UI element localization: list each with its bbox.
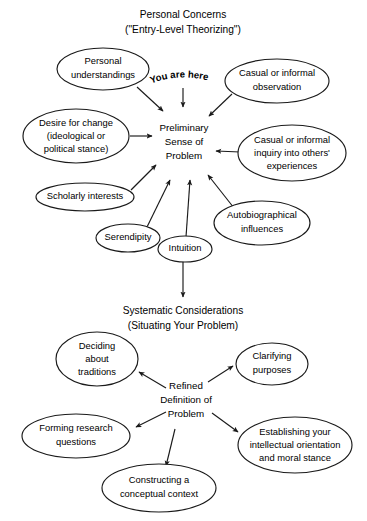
- clarifying-purposes-line2: purposes: [253, 364, 292, 375]
- node-scholarly-interests[interactable]: Scholarly interests: [36, 183, 134, 211]
- establishing-orientation-line1: Establishing your: [259, 426, 330, 437]
- serendipity-line1: Serendipity: [105, 231, 152, 242]
- autobiographical-line1: Autobiographical: [227, 209, 297, 220]
- edge-hub-to-establishing-orientation: [212, 413, 238, 432]
- node-autobiographical-influences[interactable]: Autobiographical influences: [214, 201, 310, 245]
- personal-understandings-line2: understandings: [71, 69, 135, 80]
- deciding-traditions-line1: Deciding: [79, 340, 115, 351]
- preliminary-sense-of-problem-hub: Preliminary Sense of Problem: [160, 122, 209, 161]
- establishing-orientation-line2: intellectual orientation: [250, 439, 341, 450]
- establishing-orientation-line3: and moral stance: [259, 452, 331, 463]
- node-constructing-conceptual-context[interactable]: Constructing a conceptual context: [102, 464, 216, 512]
- forming-research-questions-line2: questions: [56, 436, 96, 447]
- clarifying-purposes-line1: Clarifying: [252, 350, 291, 361]
- node-intuition[interactable]: Intuition: [158, 236, 212, 262]
- edge-serendipity-to-hub: [147, 180, 170, 227]
- bottom-hub-label-line1: Refined: [169, 380, 203, 391]
- node-establishing-orientation[interactable]: Establishing your intellectual orientati…: [238, 417, 352, 473]
- edge-hub-to-constructing-context: [166, 429, 175, 466]
- desire-for-change-line3: political stance): [44, 143, 109, 154]
- casual-inquiry-line2: inquiry into others': [254, 147, 330, 158]
- hub-label-line2: Sense of: [165, 136, 204, 147]
- top-section-title-line2: ("Entry-Level Theorizing"): [125, 24, 241, 35]
- node-clarifying-purposes[interactable]: Clarifying purposes: [236, 343, 308, 385]
- node-serendipity[interactable]: Serendipity: [96, 224, 160, 252]
- you-are-here-text: You are here: [148, 68, 209, 85]
- desire-for-change-line2: (ideological or: [47, 130, 105, 141]
- edge-hub-to-forming-research-questions: [136, 412, 166, 427]
- forming-research-questions-line1: Forming research: [39, 422, 112, 433]
- edge-autobiographical-to-hub: [208, 175, 234, 208]
- edge-hub-to-deciding-traditions: [139, 372, 166, 388]
- desire-for-change-line1: Desire for change: [39, 117, 113, 128]
- edge-scholarly-interests-to-hub: [131, 165, 156, 190]
- edge-intuition-to-hub: [186, 180, 190, 237]
- bottom-hub-label-line2: Definition of: [160, 394, 212, 405]
- constructing-context-line2: conceptual context: [120, 488, 199, 499]
- hub-label-line1: Preliminary: [160, 122, 209, 133]
- node-forming-research-questions[interactable]: Forming research questions: [22, 414, 130, 458]
- autobiographical-line2: influences: [241, 223, 284, 234]
- bottom-hub-label-line3: Problem: [168, 408, 204, 419]
- casual-inquiry-line1: Casual or informal: [254, 134, 330, 145]
- edge-hub-to-clarifying-purposes: [208, 366, 233, 382]
- intuition-line1: Intuition: [169, 242, 202, 253]
- concept-map-diagram: Personal Concerns ("Entry-Level Theorizi…: [0, 0, 367, 521]
- you-are-here-annotation: You are here: [148, 68, 209, 85]
- deciding-traditions-line2: about: [85, 353, 109, 364]
- edge-casual-observation-to-hub: [209, 94, 232, 116]
- personal-understandings-line1: Personal: [84, 55, 121, 66]
- deciding-traditions-line3: traditions: [78, 366, 116, 377]
- node-personal-understandings[interactable]: Personal understandings: [57, 48, 149, 90]
- casual-observation-line2: observation: [253, 81, 301, 92]
- refined-definition-of-problem-hub: Refined Definition of Problem: [160, 380, 212, 419]
- edge-casual-inquiry-to-hub: [216, 151, 240, 152]
- node-deciding-about-traditions[interactable]: Deciding about traditions: [56, 332, 138, 386]
- bottom-section-title-line2: (Situating Your Problem): [128, 320, 238, 331]
- node-desire-for-change[interactable]: Desire for change (ideological or politi…: [23, 109, 129, 163]
- node-casual-informal-inquiry[interactable]: Casual or informal inquiry into others' …: [238, 125, 346, 181]
- bottom-section-title-line1: Systematic Considerations: [123, 305, 244, 316]
- node-casual-informal-observation[interactable]: Casual or informal observation: [225, 59, 329, 103]
- constructing-context-line1: Constructing a: [129, 474, 190, 485]
- hub-label-line3: Problem: [166, 150, 202, 161]
- top-edges: [130, 87, 240, 297]
- scholarly-interests-line1: Scholarly interests: [47, 190, 124, 201]
- edge-personal-understandings-to-hub: [137, 87, 163, 111]
- top-section-title-line1: Personal Concerns: [140, 9, 227, 20]
- diagram-canvas: Personal Concerns ("Entry-Level Theorizi…: [0, 0, 367, 521]
- casual-inquiry-line3: experiences: [267, 160, 318, 171]
- casual-observation-line1: Casual or informal: [239, 67, 315, 78]
